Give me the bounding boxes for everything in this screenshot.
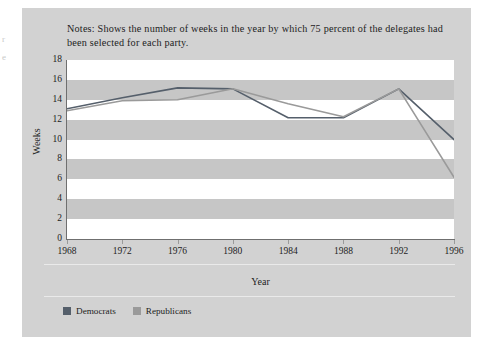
y-axis-title: Weeks bbox=[31, 112, 42, 172]
figure-page: r e Notes: Shows the number of weeks in … bbox=[0, 0, 479, 345]
x-tick bbox=[122, 240, 123, 244]
y-tick-label: 12 bbox=[40, 115, 62, 125]
y-tick-label: 8 bbox=[40, 154, 62, 164]
chart-legend: DemocratsRepublicans bbox=[63, 306, 191, 316]
x-axis-ticks bbox=[67, 240, 454, 245]
legend-item: Republicans bbox=[133, 306, 191, 316]
chart-figure: Notes: Shows the number of weeks in the … bbox=[22, 8, 471, 337]
plot-area bbox=[67, 60, 454, 239]
legend-label: Republicans bbox=[146, 306, 191, 316]
x-tick bbox=[288, 240, 289, 244]
series-lines bbox=[67, 60, 454, 239]
divider-bottom bbox=[44, 296, 455, 297]
legend-swatch bbox=[63, 307, 71, 315]
x-tick-label: 1976 bbox=[168, 246, 187, 256]
x-tick bbox=[178, 240, 179, 244]
x-tick bbox=[233, 240, 234, 244]
page-bleed-text-1: r bbox=[2, 34, 5, 44]
page-bleed-text-2: e bbox=[2, 52, 6, 62]
x-tick-label: 1996 bbox=[445, 246, 464, 256]
legend-label: Democrats bbox=[76, 306, 116, 316]
series-line-republicans bbox=[67, 89, 454, 178]
legend-swatch bbox=[133, 307, 141, 315]
x-axis-tick-labels: 19681972197619801984198819921996 bbox=[67, 246, 454, 260]
legend-item: Democrats bbox=[63, 306, 116, 316]
y-tick-label: 6 bbox=[40, 174, 62, 184]
x-axis-title: Year bbox=[67, 276, 454, 287]
x-tick-label: 1992 bbox=[389, 246, 408, 256]
x-tick-label: 1988 bbox=[334, 246, 353, 256]
y-tick-label: 4 bbox=[40, 194, 62, 204]
y-tick-label: 2 bbox=[40, 214, 62, 224]
x-tick-label: 1984 bbox=[279, 246, 298, 256]
chart-notes: Notes: Shows the number of weeks in the … bbox=[67, 22, 452, 50]
x-tick-label: 1968 bbox=[58, 246, 77, 256]
y-tick-label: 16 bbox=[40, 75, 62, 85]
x-tick-label: 1980 bbox=[223, 246, 242, 256]
y-tick-label: 0 bbox=[40, 234, 62, 244]
y-tick-label: 14 bbox=[40, 95, 62, 105]
y-tick-label: 18 bbox=[40, 55, 62, 65]
divider-top bbox=[44, 264, 455, 265]
x-tick bbox=[454, 240, 455, 244]
y-tick-label: 10 bbox=[40, 135, 62, 145]
x-tick bbox=[399, 240, 400, 244]
x-tick-label: 1972 bbox=[113, 246, 132, 256]
x-tick bbox=[343, 240, 344, 244]
x-tick bbox=[67, 240, 68, 244]
